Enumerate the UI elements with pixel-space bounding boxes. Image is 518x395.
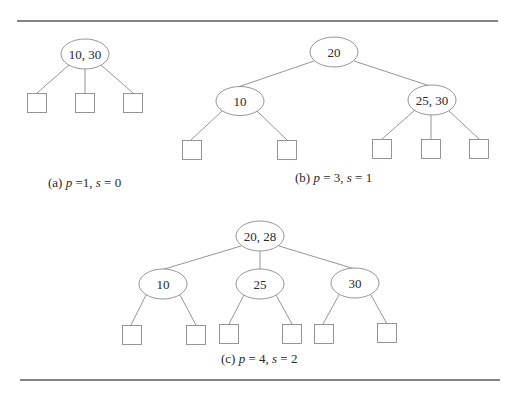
leaf-box [76,94,95,113]
node-keys: 25, 30 [416,93,449,108]
node-keys: 20 [328,45,341,60]
leaf-box [183,141,202,160]
edge [161,246,241,270]
caption-a: (a) p =1, s = 0 [48,175,121,190]
node-keys: 10 [234,94,247,109]
node-keys: 10, 30 [69,47,102,62]
leaf-box [470,140,489,159]
tree-b: 20 10 25, 30 (b) p = 3, s = 1 [183,37,489,185]
leaf-box [283,325,302,344]
node-keys: 10 [157,277,170,292]
tree-c: 20, 28 10 25 30 (c) p = 4, s = 2 [123,221,397,366]
edge [323,295,339,324]
leaf-box [278,141,297,160]
node-keys: 20, 28 [244,229,277,244]
caption-b: (b) p = 3, s = 1 [295,170,372,185]
edge [279,246,355,269]
edge [37,65,69,93]
leaf-box [422,140,441,159]
edge [101,65,133,93]
edge [257,111,287,140]
node-keys: 30 [349,276,362,291]
edge [191,111,222,140]
edge [371,295,387,324]
leaf-box [123,326,142,345]
node-keys: 25 [254,277,267,292]
edge [238,61,314,87]
tree-a: 10, 30 (a) p =1, s = 0 [28,39,143,190]
edge [180,295,196,325]
leaf-box [373,140,392,159]
edge [276,295,292,324]
leaf-box [378,324,397,343]
edge [131,295,146,325]
leaf-box [28,94,47,113]
leaf-box [187,326,206,345]
leaf-box [315,325,334,344]
edge [354,61,430,86]
caption-c: (c) p = 4, s = 2 [221,351,297,366]
edge [229,295,244,324]
edge [382,110,415,139]
leaf-box [220,325,239,344]
leaf-box [124,94,143,113]
tree-figure: 10, 30 (a) p =1, s = 0 20 10 25, 30 (b) … [0,0,518,395]
edge [448,110,479,139]
